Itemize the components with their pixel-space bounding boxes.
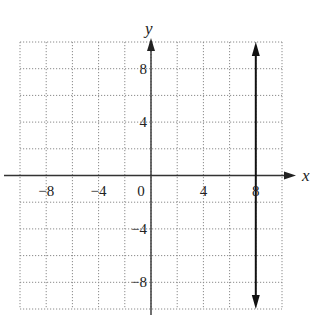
x-tick-label: 8	[252, 183, 260, 199]
coordinate-plane: xy−8−4048−8−448	[0, 0, 319, 327]
tick-labels: xy−8−4048−8−448	[38, 19, 310, 290]
y-axis-arrow-icon	[147, 38, 155, 51]
x-axis-label: x	[301, 166, 310, 185]
x-tick-label: −4	[91, 183, 107, 199]
x-tick-label: 4	[200, 183, 208, 199]
y-axis-label: y	[143, 19, 153, 38]
axes	[4, 38, 296, 315]
arrow-up-icon	[252, 42, 260, 56]
x-tick-label: 0	[137, 183, 145, 199]
x-tick-label: −8	[38, 183, 54, 199]
x-axis-arrow-icon	[284, 172, 296, 180]
y-tick-label: −4	[131, 221, 147, 237]
y-tick-label: 8	[140, 61, 148, 77]
arrow-down-icon	[252, 295, 260, 309]
y-tick-label: −8	[131, 274, 147, 290]
y-tick-label: 4	[140, 114, 148, 130]
